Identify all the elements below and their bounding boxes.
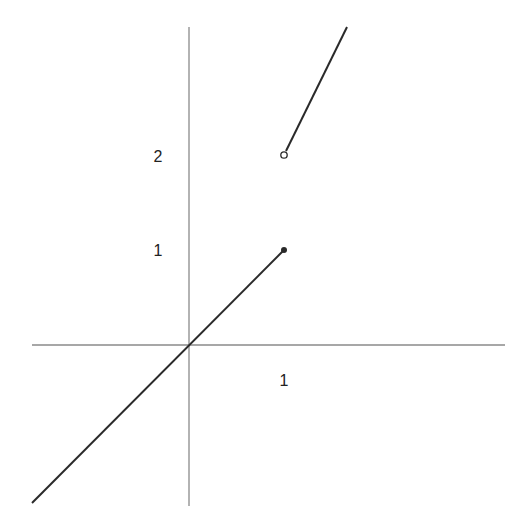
filled-endpoint-marker xyxy=(281,247,287,253)
piecewise-function-plot: 1 1 2 xyxy=(0,0,525,529)
y-tick-label-2: 2 xyxy=(154,148,163,165)
open-endpoint-marker xyxy=(281,152,287,158)
x-tick-label-1: 1 xyxy=(280,372,289,389)
y-tick-label-1: 1 xyxy=(154,242,163,259)
series-lower-line xyxy=(32,250,284,503)
series-upper-line xyxy=(286,27,347,151)
